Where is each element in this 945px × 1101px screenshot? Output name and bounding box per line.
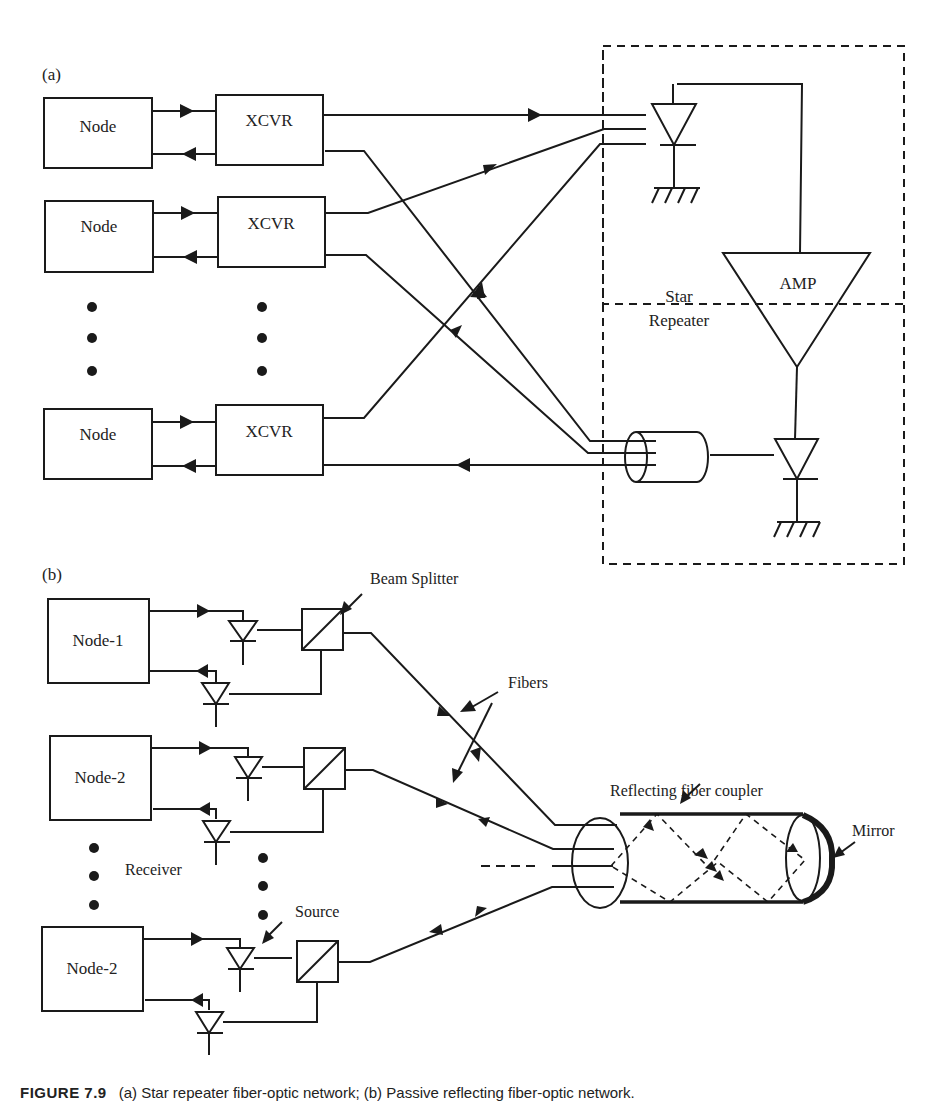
node-row-a3: Node XCVR	[44, 405, 323, 479]
ellipsis-dots	[89, 843, 268, 920]
node-row-b1: Node-1	[48, 599, 343, 727]
node-label: Node-1	[73, 631, 124, 650]
amp-label: AMP	[780, 274, 817, 293]
photodiode-icon	[652, 84, 696, 188]
receiver-diode-icon	[196, 1012, 223, 1033]
source-diode-icon	[227, 948, 254, 969]
photodiode-icon	[775, 439, 818, 522]
node-row-b3: Node-2	[42, 927, 338, 1055]
node-label: Node	[80, 425, 117, 444]
node-box	[45, 201, 153, 272]
receiver-diode-icon	[202, 683, 229, 704]
node-row-a1: Node XCVR	[44, 95, 323, 168]
amplifier-triangle	[723, 253, 870, 367]
caption-text: (a) Star repeater fiber-optic network; (…	[119, 1084, 635, 1101]
repeater-label-2: Repeater	[649, 311, 710, 330]
xcvr-box	[216, 95, 323, 165]
source-diode-icon	[229, 621, 257, 641]
arrow-left-icon	[182, 459, 196, 473]
beam-splitter-label: Beam Splitter	[370, 570, 459, 588]
ellipsis-dots	[87, 302, 267, 376]
fiber-links-a	[323, 108, 656, 472]
fibers-label: Fibers	[508, 674, 548, 691]
xcvr-label: XCVR	[245, 422, 293, 441]
xcvr-label: XCVR	[245, 111, 293, 130]
node-label: Node-2	[67, 959, 118, 978]
node-box	[44, 409, 152, 479]
arrow-left-icon	[183, 250, 197, 264]
node-row-a2: Node XCVR	[45, 197, 325, 272]
arrow-right-icon	[180, 415, 194, 429]
caption-label: FIGURE 7.9	[20, 1084, 107, 1101]
mirror-label: Mirror	[852, 822, 895, 839]
node-label: Node	[81, 217, 118, 236]
source-diode-icon	[235, 757, 262, 778]
node-label: Node	[80, 117, 117, 136]
source-label: Source	[295, 903, 339, 920]
reflecting-coupler-icon	[572, 814, 832, 908]
panel-b-label: (b)	[42, 565, 62, 584]
ground-icon	[652, 188, 700, 203]
fiber-links-b	[338, 633, 617, 962]
pointer-arrow-icon	[452, 768, 463, 783]
arrow-left-icon	[182, 147, 196, 161]
figure-caption: FIGURE 7.9(a) Star repeater fiber-optic …	[20, 1084, 635, 1101]
panel-a-label: (a)	[42, 65, 61, 84]
mirror-icon	[803, 815, 832, 902]
arrow-right-icon	[181, 206, 195, 220]
receiver-label: Receiver	[125, 861, 183, 878]
xcvr-label: XCVR	[247, 214, 295, 233]
ground-icon	[774, 522, 820, 537]
repeater-label-1: Star	[665, 287, 693, 306]
star-coupler-icon	[590, 432, 708, 482]
arrow-right-icon	[180, 104, 194, 118]
receiver-diode-icon	[203, 821, 230, 842]
node-label: Node-2	[75, 768, 126, 787]
